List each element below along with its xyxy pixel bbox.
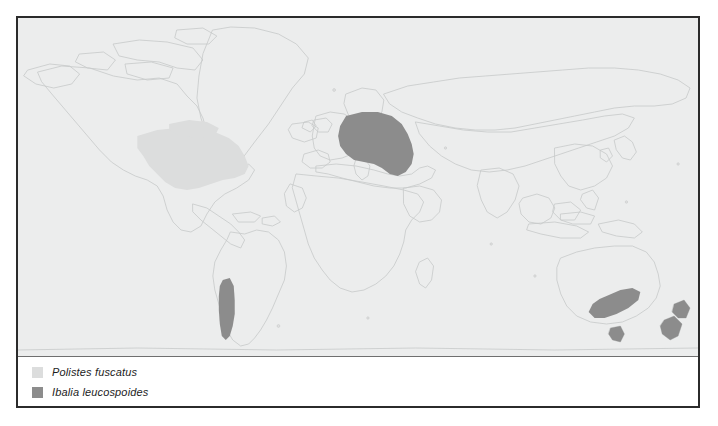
island-dot-2: [444, 147, 446, 149]
island-dot-5: [277, 325, 280, 328]
legend-item-polistes-fuscatus: Polistes fuscatus: [32, 364, 698, 380]
island-dot-3: [490, 243, 492, 245]
figure-frame: Polistes fuscatus Ibalia leucospoides: [16, 16, 700, 408]
legend-swatch-polistes-fuscatus: [32, 367, 43, 378]
legend-item-ibalia-leucospoides: Ibalia leucospoides: [32, 384, 698, 400]
island-dot-8: [367, 317, 369, 319]
island-dot-1: [333, 89, 336, 92]
world-map-panel: [18, 18, 698, 356]
legend-swatch-ibalia-leucospoides: [32, 387, 43, 398]
legend-label-polistes-fuscatus: Polistes fuscatus: [52, 366, 137, 378]
island-dot-6: [625, 201, 627, 203]
world-map-svg: [18, 18, 698, 356]
legend-label-ibalia-leucospoides: Ibalia leucospoides: [52, 386, 148, 398]
map-legend: Polistes fuscatus Ibalia leucospoides: [18, 357, 698, 406]
island-dot-4: [534, 275, 536, 277]
island-dot-7: [677, 163, 679, 165]
